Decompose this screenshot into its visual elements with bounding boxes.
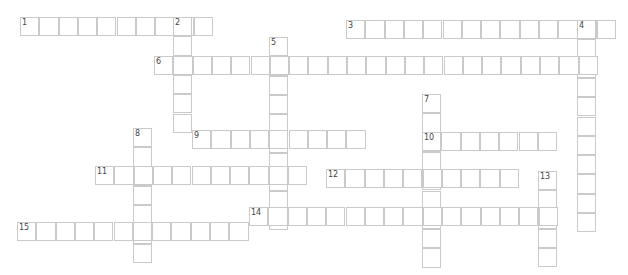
crossword-cell-14-across-16[interactable] <box>539 207 558 226</box>
crossword-cell-6-across-14[interactable] <box>405 56 424 75</box>
crossword-cell-6-across-7[interactable] <box>270 56 289 75</box>
crossword-cell-3-across-10[interactable] <box>520 20 539 39</box>
crossword-cell-12-across-9[interactable] <box>480 169 499 188</box>
crossword-cell-1-across-3[interactable] <box>59 17 78 36</box>
crossword-cell-6-across-8[interactable] <box>289 56 308 75</box>
crossword-cell-1-across-4[interactable] <box>78 17 97 36</box>
crossword-cell-9-across-6[interactable] <box>289 130 308 149</box>
crossword-cell-6-across-22[interactable] <box>559 56 578 75</box>
crossword-cell-4-down-1[interactable]: 4 <box>577 20 596 39</box>
crossword-cell-3-across-9[interactable] <box>500 20 519 39</box>
crossword-cell-11-across-11[interactable] <box>288 166 307 185</box>
crossword-cell-2-down-5[interactable] <box>173 94 192 113</box>
crossword-cell-2-down-1[interactable]: 2 <box>173 17 192 36</box>
crossword-cell-6-across-10[interactable] <box>328 56 347 75</box>
crossword-cell-6-across-2[interactable] <box>173 56 192 75</box>
crossword-cell-10-across-7[interactable] <box>538 132 557 151</box>
crossword-cell-15-across-3[interactable] <box>56 222 75 241</box>
crossword-cell-15-across-9[interactable] <box>171 222 190 241</box>
crossword-cell-11-across-10[interactable] <box>269 166 288 185</box>
crossword-cell-3-across-5[interactable] <box>423 20 442 39</box>
crossword-cell-15-across-2[interactable] <box>36 222 55 241</box>
crossword-cell-11-across-6[interactable] <box>192 166 211 185</box>
crossword-cell-3-across-12[interactable] <box>558 20 577 39</box>
crossword-cell-6-across-6[interactable] <box>251 56 270 75</box>
crossword-cell-8-down-4[interactable] <box>133 186 152 205</box>
crossword-cell-3-across-8[interactable] <box>481 20 500 39</box>
crossword-cell-6-across-20[interactable] <box>521 56 540 75</box>
crossword-cell-14-across-2[interactable] <box>268 207 287 226</box>
crossword-cell-2-down-2[interactable] <box>173 36 192 55</box>
crossword-cell-15-across-7[interactable] <box>133 222 152 241</box>
crossword-cell-14-across-7[interactable] <box>365 207 384 226</box>
crossword-cell-14-across-14[interactable] <box>500 207 519 226</box>
crossword-cell-14-across-11[interactable] <box>442 207 461 226</box>
crossword-cell-6-across-4[interactable] <box>212 56 231 75</box>
crossword-cell-9-across-9[interactable] <box>346 130 365 149</box>
crossword-cell-9-across-7[interactable] <box>308 130 327 149</box>
crossword-cell-12-across-4[interactable] <box>384 169 403 188</box>
crossword-cell-14-across-9[interactable] <box>403 207 422 226</box>
crossword-cell-9-across-2[interactable] <box>211 130 230 149</box>
crossword-cell-12-across-3[interactable] <box>365 169 384 188</box>
crossword-cell-14-across-15[interactable] <box>519 207 538 226</box>
crossword-cell-10-across-2[interactable] <box>441 132 460 151</box>
crossword-cell-14-across-3[interactable] <box>288 207 307 226</box>
crossword-cell-13-down-4[interactable] <box>538 229 557 248</box>
crossword-cell-1-across-10[interactable] <box>194 17 213 36</box>
crossword-cell-14-across-8[interactable] <box>384 207 403 226</box>
crossword-cell-6-across-23[interactable] <box>579 56 598 75</box>
crossword-cell-12-across-8[interactable] <box>461 169 480 188</box>
crossword-cell-6-across-15[interactable] <box>424 56 443 75</box>
crossword-cell-11-across-9[interactable] <box>249 166 268 185</box>
crossword-cell-12-across-7[interactable] <box>442 169 461 188</box>
crossword-cell-1-across-1[interactable]: 1 <box>20 17 39 36</box>
crossword-cell-4-down-6[interactable] <box>577 117 596 136</box>
crossword-cell-4-down-10[interactable] <box>577 194 596 213</box>
crossword-cell-12-across-1[interactable]: 12 <box>326 169 345 188</box>
crossword-cell-15-across-12[interactable] <box>229 222 248 241</box>
crossword-cell-11-across-1[interactable]: 11 <box>95 166 114 185</box>
crossword-cell-10-across-1[interactable]: 10 <box>422 132 441 151</box>
crossword-cell-4-down-8[interactable] <box>577 155 596 174</box>
crossword-cell-9-across-3[interactable] <box>231 130 250 149</box>
crossword-cell-6-across-21[interactable] <box>540 56 559 75</box>
crossword-cell-9-across-8[interactable] <box>327 130 346 149</box>
crossword-cell-12-across-10[interactable] <box>500 169 519 188</box>
crossword-cell-14-across-6[interactable] <box>346 207 365 226</box>
crossword-cell-13-down-5[interactable] <box>538 248 557 267</box>
crossword-cell-2-down-6[interactable] <box>173 114 192 133</box>
crossword-cell-8-down-7[interactable] <box>133 244 152 263</box>
crossword-cell-6-across-19[interactable] <box>501 56 520 75</box>
crossword-cell-15-across-6[interactable] <box>114 222 133 241</box>
crossword-cell-11-across-2[interactable] <box>114 166 133 185</box>
crossword-cell-6-across-3[interactable] <box>193 56 212 75</box>
crossword-cell-2-down-4[interactable] <box>173 75 192 94</box>
crossword-cell-14-across-1[interactable]: 14 <box>249 207 268 226</box>
crossword-cell-8-down-1[interactable]: 8 <box>133 128 152 147</box>
crossword-cell-6-across-17[interactable] <box>463 56 482 75</box>
crossword-cell-1-across-2[interactable] <box>39 17 58 36</box>
crossword-cell-6-across-16[interactable] <box>444 56 463 75</box>
crossword-cell-1-across-7[interactable] <box>136 17 155 36</box>
crossword-cell-6-across-1[interactable]: 6 <box>154 56 173 75</box>
crossword-cell-7-down-9[interactable] <box>422 248 441 267</box>
crossword-cell-15-across-1[interactable]: 15 <box>17 222 36 241</box>
crossword-cell-7-down-1[interactable]: 7 <box>422 94 441 113</box>
crossword-cell-1-across-8[interactable] <box>155 17 174 36</box>
crossword-cell-6-across-13[interactable] <box>386 56 405 75</box>
crossword-cell-12-across-6[interactable] <box>423 169 442 188</box>
crossword-cell-9-across-5[interactable] <box>269 130 288 149</box>
crossword-cell-11-across-8[interactable] <box>230 166 249 185</box>
crossword-cell-9-across-4[interactable] <box>250 130 269 149</box>
crossword-cell-4-down-9[interactable] <box>577 174 596 193</box>
crossword-cell-3-across-6[interactable] <box>443 20 462 39</box>
crossword-cell-14-across-10[interactable] <box>423 207 442 226</box>
crossword-cell-14-across-5[interactable] <box>326 207 345 226</box>
crossword-cell-7-down-8[interactable] <box>422 229 441 248</box>
crossword-cell-12-across-5[interactable] <box>403 169 422 188</box>
crossword-cell-12-across-2[interactable] <box>345 169 364 188</box>
crossword-cell-14-across-13[interactable] <box>481 207 500 226</box>
crossword-cell-3-across-11[interactable] <box>539 20 558 39</box>
crossword-cell-6-across-12[interactable] <box>366 56 385 75</box>
